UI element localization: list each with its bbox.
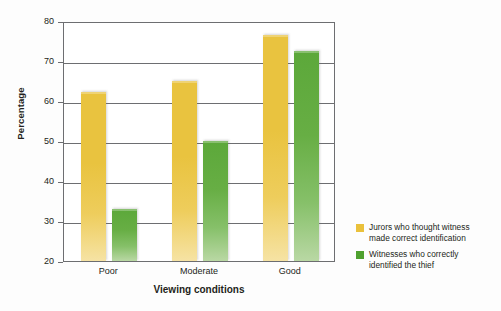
y-axis-tick-label: 30 bbox=[22, 217, 54, 226]
bar bbox=[172, 81, 197, 261]
green-swatch-icon bbox=[356, 251, 364, 259]
legend-label-jurors: Jurors who thought witness made correct … bbox=[369, 222, 470, 243]
y-axis-tick-label: 20 bbox=[22, 257, 54, 266]
yellow-swatch-icon bbox=[356, 224, 364, 232]
plot-area bbox=[63, 22, 335, 262]
x-axis-tick-label: Good bbox=[245, 266, 335, 276]
legend-label-jurors-line2: made correct identification bbox=[369, 233, 466, 243]
y-axis-tick-label: 50 bbox=[22, 137, 54, 146]
y-axis-tick-label: 60 bbox=[22, 97, 54, 106]
legend-item-jurors: Jurors who thought witness made correct … bbox=[356, 222, 498, 243]
legend-item-witnesses: Witnesses who correctly identified the t… bbox=[356, 249, 498, 270]
y-axis-tick-label: 70 bbox=[22, 57, 54, 66]
bar bbox=[294, 51, 319, 261]
y-axis-tick-label: 40 bbox=[22, 177, 54, 186]
y-axis-tick-label: 80 bbox=[22, 17, 54, 26]
bar-highlight bbox=[263, 35, 288, 37]
legend-label-witnesses: Witnesses who correctly identified the t… bbox=[369, 249, 458, 270]
x-axis-tick-label: Poor bbox=[63, 266, 153, 276]
x-axis-tick-label: Moderate bbox=[154, 266, 244, 276]
chart-legend: Jurors who thought witness made correct … bbox=[356, 222, 498, 276]
legend-label-witnesses-line1: Witnesses who correctly bbox=[369, 249, 458, 259]
x-axis-title: Viewing conditions bbox=[63, 284, 335, 295]
legend-label-witnesses-line2: identified the thief bbox=[369, 260, 434, 270]
bar bbox=[81, 92, 106, 261]
bar-highlight bbox=[203, 141, 228, 143]
bar bbox=[112, 209, 137, 261]
bar-highlight bbox=[81, 92, 106, 94]
bar-chart-figure: Percentage 20304050607080 PoorModerateGo… bbox=[0, 0, 501, 311]
bar bbox=[263, 35, 288, 261]
bar-highlight bbox=[112, 209, 137, 211]
y-axis-title: Percentage bbox=[15, 64, 26, 164]
y-axis-tick-mark bbox=[58, 262, 63, 263]
bar-highlight bbox=[172, 81, 197, 83]
bar-highlight bbox=[294, 51, 319, 53]
bar bbox=[203, 141, 228, 261]
legend-label-jurors-line1: Jurors who thought witness bbox=[369, 222, 470, 232]
